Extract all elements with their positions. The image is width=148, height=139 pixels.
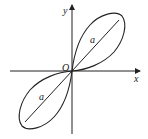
- lemniscate-diagram: y x O a a: [0, 0, 148, 139]
- upper-lobe-label: a: [90, 34, 95, 45]
- y-axis-label: y: [62, 5, 68, 16]
- lower-lobe-label: a: [39, 91, 44, 102]
- lower-diagonal: [25, 71, 72, 122]
- upper-diagonal: [72, 20, 119, 71]
- x-axis-label: x: [133, 73, 139, 84]
- origin-label: O: [62, 62, 69, 73]
